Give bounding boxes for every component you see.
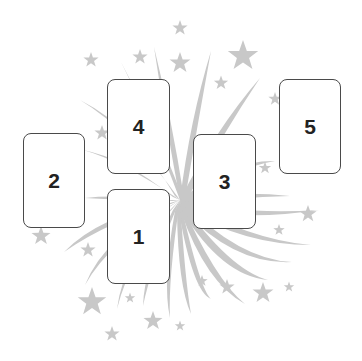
card-number-label: 1 <box>133 226 145 247</box>
card-position-2: 2 <box>23 133 85 228</box>
card-number-label: 2 <box>48 170 60 191</box>
card-number-label: 3 <box>219 171 231 192</box>
card-position-3: 3 <box>193 134 256 229</box>
card-position-1: 1 <box>107 189 170 284</box>
card-position-4: 4 <box>107 79 170 174</box>
card-number-label: 5 <box>304 116 316 137</box>
card-position-5: 5 <box>279 79 341 174</box>
card-number-label: 4 <box>133 116 145 137</box>
